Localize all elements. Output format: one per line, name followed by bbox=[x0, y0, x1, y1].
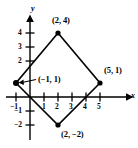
point-label-2-neg2: (2, −2) bbox=[61, 130, 84, 139]
vertex-point-5-1 bbox=[97, 80, 102, 85]
x-tick-label-1: 1 bbox=[42, 103, 46, 111]
vertex-point-neg1-1 bbox=[13, 80, 19, 86]
y-tick-label-neg1: −1 bbox=[14, 107, 22, 115]
y-tick-label-2: 2 bbox=[18, 57, 22, 65]
leader-arrowhead-neg1-1 bbox=[19, 80, 24, 85]
y-tick-label-neg2: −2 bbox=[14, 121, 22, 129]
y-axis-label: y bbox=[31, 5, 35, 13]
leader-arrow-neg1-1 bbox=[22, 80, 36, 83]
y-tick-label-4: 4 bbox=[18, 29, 22, 37]
y-tick-label-3: 3 bbox=[18, 43, 22, 51]
point-label-neg1-1: (−1, 1) bbox=[38, 75, 61, 84]
vertex-point-2-4 bbox=[55, 30, 60, 35]
y-axis-arrowhead bbox=[26, 15, 34, 23]
coordinate-plane-figure: (2, 4) (5, 1) (2, −2) (−1, 1) x y −1 1 2… bbox=[0, 0, 138, 148]
x-tick-label-5: 5 bbox=[97, 103, 101, 111]
point-label-2-4: (2, 4) bbox=[52, 16, 70, 25]
x-tick-label-3: 3 bbox=[69, 103, 73, 111]
x-tick-label-4: 4 bbox=[83, 103, 87, 111]
point-label-5-1: (5, 1) bbox=[104, 66, 122, 75]
vertex-point-2-neg2 bbox=[55, 122, 60, 127]
x-tick-label-2: 2 bbox=[55, 103, 59, 111]
x-axis-label: x bbox=[131, 92, 135, 100]
